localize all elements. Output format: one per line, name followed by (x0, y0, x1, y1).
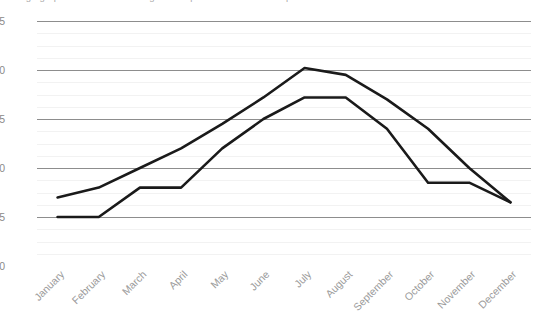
x-axis-labels: JanuaryFebruaryMarchAprilMayJuneJulyAugu… (37, 268, 531, 333)
plot-area (37, 21, 531, 266)
series-lines (37, 21, 531, 266)
y-axis-tick-label: 0 (0, 260, 5, 272)
y-axis-tick-label: 25 (0, 15, 5, 27)
y-axis-tick-label: 15 (0, 113, 5, 125)
y-axis-tick-label: 10 (0, 162, 5, 174)
y-axis-tick-label: 5 (0, 211, 5, 223)
y-axis-tick-label: 20 (0, 64, 5, 76)
series-line-2 (58, 97, 511, 217)
chart-title: Average graph of the annual change in te… (0, 0, 548, 3)
line-chart: Average graph of the annual change in te… (0, 0, 548, 333)
